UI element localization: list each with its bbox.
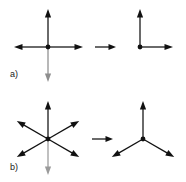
l-shape-two-arrows: [137, 9, 173, 50]
arrow-lower-left: [17, 139, 48, 157]
arrow-down: [45, 139, 51, 175]
arrow-up: [137, 9, 143, 47]
arrow-up: [45, 101, 51, 139]
three-arrow-y-shape: [112, 101, 174, 157]
arrow-upper-left: [17, 121, 48, 139]
panel-label-b: b): [10, 163, 18, 172]
arrow-down: [45, 47, 51, 82]
arrow-left: [14, 44, 48, 50]
arrow-up: [140, 101, 146, 139]
implication-arrow: [95, 44, 116, 50]
arrow-lower-right: [48, 139, 79, 157]
six-arrow-star: [17, 101, 79, 175]
origin-dot: [141, 137, 146, 142]
origin-dot: [46, 45, 51, 50]
origin-dot: [46, 137, 51, 142]
four-arrow-cross: [14, 9, 83, 82]
arrow-lower-left: [112, 139, 143, 157]
vector-diagram-canvas: [0, 0, 186, 182]
arrow-lower-right: [143, 139, 174, 157]
figure-root: a) b): [0, 0, 186, 182]
arrow-upper-right: [48, 121, 79, 139]
implication-arrow: [92, 136, 113, 142]
arrow-right: [140, 44, 173, 50]
arrow-right: [48, 44, 83, 50]
panel-label-a: a): [10, 70, 18, 79]
origin-dot: [138, 45, 143, 50]
arrow-up: [45, 9, 51, 47]
